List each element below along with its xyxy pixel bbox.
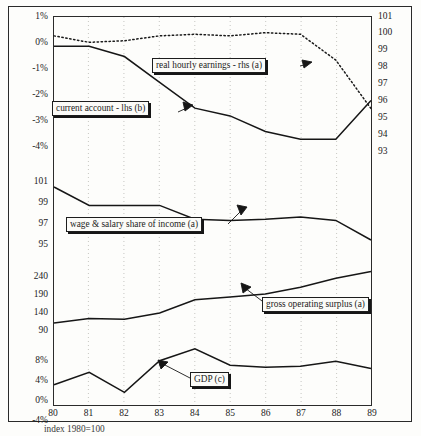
left-tick-p4-1: 4%	[35, 376, 48, 386]
x-axis: 80 81 82 83 84 85 86 87 88 89	[53, 408, 372, 422]
right-tick-4: 97	[378, 79, 388, 89]
left-tick-p2-0: 101	[34, 177, 48, 187]
right-tick-1: 100	[378, 28, 392, 38]
x-tick-87: 87	[296, 408, 306, 419]
x-tick-89: 89	[367, 408, 377, 419]
left-tick-p2-3: 95	[39, 240, 49, 250]
right-tick-8: 93	[378, 147, 388, 157]
left-tick-p3-1: 190	[34, 290, 48, 300]
callout-real-hourly-earnings[interactable]: real hourly earnings - rhs (a)	[152, 58, 266, 73]
callout-gdp[interactable]: GDP (c)	[190, 372, 229, 387]
right-axis: 101 100 99 98 97 96 95 94 93	[374, 16, 412, 406]
callout-current-account[interactable]: current account - lhs (b)	[52, 101, 149, 116]
x-tick-80: 80	[48, 408, 58, 419]
left-tick-p4-2: 0%	[35, 396, 48, 406]
x-tick-82: 82	[119, 408, 129, 419]
series-wage-salary-share	[54, 187, 371, 240]
right-tick-7: 94	[378, 130, 388, 140]
left-axis: 1% 0% -1% -2% -3% -4% 101 99 97 95 240 1…	[8, 16, 52, 406]
left-tick-p3-2: 140	[34, 308, 48, 318]
figure-container: 1% 0% -1% -2% -3% -4% 101 99 97 95 240 1…	[0, 0, 421, 436]
left-tick-p2-2: 97	[39, 219, 49, 229]
right-tick-0: 101	[378, 12, 392, 22]
figure-footnote: index 1980=100	[44, 424, 344, 436]
left-tick-p1-0: 1%	[35, 12, 48, 22]
x-tick-85: 85	[225, 408, 235, 419]
right-tick-3: 98	[378, 62, 388, 72]
right-tick-6: 95	[378, 113, 388, 123]
left-tick-p2-1: 99	[39, 198, 49, 208]
callout-wage-salary-share[interactable]: wage & salary share of income (a)	[66, 217, 202, 232]
left-tick-p1-1: 0%	[35, 38, 48, 48]
left-tick-p1-3: -2%	[32, 90, 48, 100]
panel-current-account-earnings	[53, 16, 372, 164]
x-tick-86: 86	[261, 408, 271, 419]
x-tick-84: 84	[190, 408, 200, 419]
x-tick-83: 83	[155, 408, 165, 419]
left-tick-p1-5: -4%	[32, 142, 48, 152]
left-tick-p3-0: 240	[34, 272, 48, 282]
panel-wage-salary-share	[53, 164, 372, 256]
x-tick-88: 88	[332, 408, 342, 419]
panel-gross-operating-surplus	[53, 256, 372, 334]
left-tick-p1-4: -3%	[32, 116, 48, 126]
left-tick-p3-3: 90	[39, 326, 49, 336]
plot-area	[53, 16, 372, 406]
callout-gross-operating-surplus[interactable]: gross operating surplus (a)	[262, 297, 369, 312]
left-tick-p4-0: 8%	[35, 356, 48, 366]
panel-gdp	[53, 334, 372, 406]
right-tick-5: 96	[378, 96, 388, 106]
right-tick-2: 99	[378, 45, 388, 55]
x-tick-81: 81	[84, 408, 94, 419]
left-tick-p1-2: -1%	[32, 64, 48, 74]
